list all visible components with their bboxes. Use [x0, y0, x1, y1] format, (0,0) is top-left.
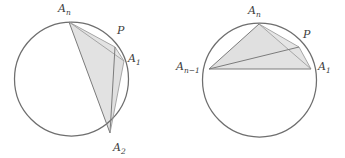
geometry-figure: An P A1 A2: [0, 0, 345, 158]
figure-container: An P A1 A2: [0, 0, 345, 158]
right-panel: An P A1 An−1: [175, 4, 331, 137]
right-label-an: An: [247, 4, 261, 19]
right-label-p: P: [302, 28, 311, 41]
right-label-a1: A1: [317, 60, 331, 75]
right-label-anm1: An−1: [175, 60, 200, 75]
left-label-a1: A1: [127, 52, 141, 67]
left-label-a2: A2: [112, 141, 126, 156]
left-panel: An P A1 A2: [15, 2, 141, 156]
left-label-p: P: [116, 24, 125, 37]
left-label-an: An: [57, 2, 71, 17]
